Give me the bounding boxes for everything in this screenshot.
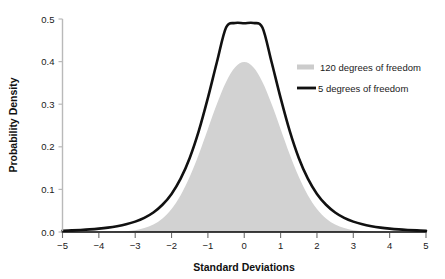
x-tick-label: 3 (351, 240, 356, 251)
x-tick-label: 2 (314, 240, 319, 251)
y-tick-label: 0.1 (41, 184, 54, 195)
chart-figure: 0.00.10.20.30.40.5 −5−4−3−2−1012345 Stan… (0, 0, 445, 279)
x-axis-ticks: −5−4−3−2−1012345 (57, 233, 429, 251)
y-tick-label: 0.3 (41, 99, 54, 110)
y-tick-label: 0.0 (41, 227, 54, 238)
y-tick-label: 0.4 (41, 56, 54, 67)
x-tick-label: −1 (202, 240, 213, 251)
plot-area (63, 23, 427, 232)
x-tick-label: 4 (387, 240, 392, 251)
legend-label-5df: 5 degrees of freedom (318, 83, 408, 94)
x-tick-label: −5 (57, 240, 68, 251)
x-tick-label: 5 (423, 240, 428, 251)
y-tick-label: 0.2 (41, 141, 54, 152)
distribution-plot: 0.00.10.20.30.40.5 −5−4−3−2−1012345 Stan… (0, 0, 445, 279)
x-tick-label: 0 (242, 240, 247, 251)
legend: 120 degrees of freedom 5 degrees of free… (297, 62, 421, 94)
y-axis-title: Probability Density (7, 77, 19, 172)
legend-swatch-120df (297, 65, 314, 70)
x-axis-title: Standard Deviations (193, 261, 295, 273)
y-axis-ticks: 0.00.10.20.30.40.5 (41, 14, 62, 238)
legend-label-120df: 120 degrees of freedom (320, 62, 421, 73)
x-tick-label: −3 (130, 240, 141, 251)
x-tick-label: −4 (93, 240, 104, 251)
x-tick-label: −2 (166, 240, 177, 251)
x-tick-label: 1 (278, 240, 283, 251)
y-tick-label: 0.5 (41, 14, 54, 25)
